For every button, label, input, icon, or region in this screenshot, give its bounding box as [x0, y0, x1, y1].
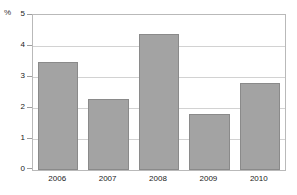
x-axis-tick-label: 2007 — [82, 174, 132, 184]
bar — [38, 62, 78, 171]
y-axis-tick-labels: 012345 — [0, 14, 32, 171]
bar — [240, 83, 280, 170]
x-axis-tick-labels: 20062007200820092010 — [32, 174, 286, 188]
bar — [139, 34, 179, 170]
x-axis-tick-label: 2008 — [133, 174, 183, 184]
x-axis-tick-label: 2010 — [234, 174, 284, 184]
y-axis-tick-label: 1 — [5, 134, 25, 142]
bars-group — [33, 15, 285, 170]
y-axis-tick-label: 4 — [5, 41, 25, 49]
plot-area — [32, 14, 286, 171]
y-axis-tick-label: 3 — [5, 72, 25, 80]
bar-chart: % 012345 20062007200820092010 — [0, 0, 297, 195]
bar — [88, 99, 128, 170]
bar — [189, 114, 229, 170]
y-axis-tick-label: 2 — [5, 103, 25, 111]
y-axis-tick-label: 0 — [5, 165, 25, 173]
x-axis-tick-label: 2006 — [32, 174, 82, 184]
y-axis-tick-label: 5 — [5, 10, 25, 18]
x-axis-tick-label: 2009 — [183, 174, 233, 184]
